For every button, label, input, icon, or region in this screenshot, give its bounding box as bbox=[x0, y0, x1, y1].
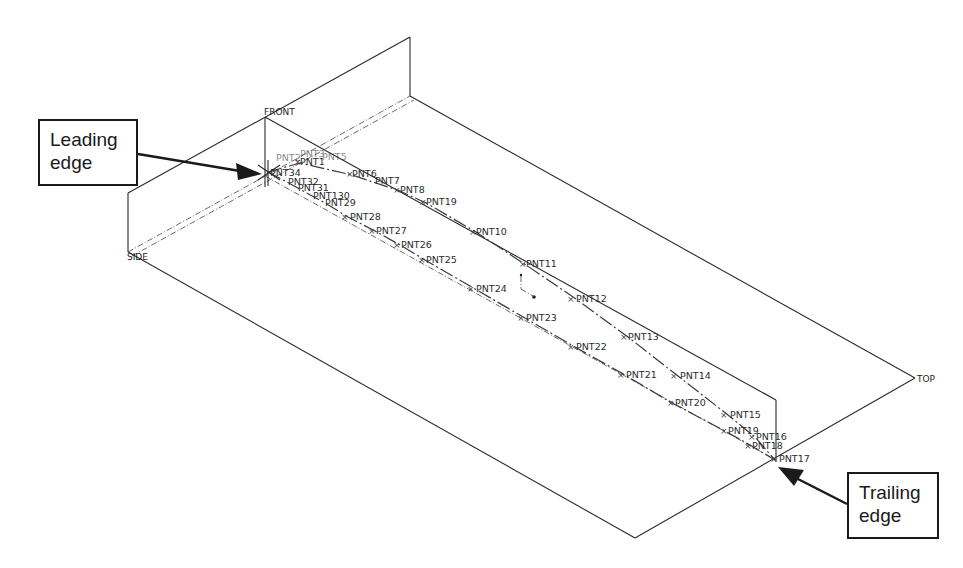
front-plane-label: FRONT bbox=[264, 107, 295, 117]
side-plane bbox=[128, 37, 414, 256]
svg-text:×: × bbox=[744, 441, 752, 451]
svg-text:×: × bbox=[419, 197, 427, 207]
top-plane-label: TOP bbox=[916, 374, 936, 384]
airfoil-diagram-canvas: FRONT SIDE TOP PNT1 PNT6 PNT7 PNT8 PNT19… bbox=[0, 0, 963, 568]
trailing-point-label: PNT17 bbox=[779, 453, 810, 464]
trailing-callout-line2: edge bbox=[859, 504, 937, 527]
svg-text:×: × bbox=[341, 212, 349, 222]
svg-text:×: × bbox=[620, 332, 628, 342]
leading-callout-line1: Leading bbox=[50, 128, 136, 151]
leading-edge-arrow bbox=[138, 154, 262, 180]
svg-text:×: × bbox=[368, 226, 376, 236]
csys-icon bbox=[520, 274, 536, 299]
point-label: PNT29 bbox=[325, 197, 356, 208]
point-label: PNT6 bbox=[352, 168, 377, 179]
svg-text:×: × bbox=[393, 240, 401, 250]
lower-surface-points: PNT34 PNT32 PNT31 PNT130 PNT29 PNT28 PNT… bbox=[270, 167, 783, 451]
point-label: PNT10 bbox=[476, 226, 507, 237]
svg-text:PNT2: PNT2 bbox=[276, 152, 301, 163]
point-label: PNT15 bbox=[730, 409, 761, 420]
svg-text:×: × bbox=[469, 227, 477, 237]
trailing-callout-line1: Trailing bbox=[859, 481, 937, 504]
point-label: PNT23 bbox=[526, 312, 557, 323]
trailing-edge-arrow bbox=[778, 467, 847, 504]
trailing-edge-callout: Trailing edge bbox=[847, 472, 939, 539]
svg-text:×: × bbox=[670, 371, 678, 381]
leading-callout-line2: edge bbox=[50, 151, 136, 174]
svg-text:×: × bbox=[720, 426, 728, 436]
svg-text:×: × bbox=[467, 284, 475, 294]
svg-text:×: × bbox=[567, 342, 575, 352]
svg-text:PNT3: PNT3 bbox=[300, 148, 325, 159]
point-label: PNT27 bbox=[376, 225, 407, 236]
point-label: PNT11 bbox=[526, 258, 557, 269]
point-label: PNT21 bbox=[626, 369, 657, 380]
point-label: PNT14 bbox=[680, 370, 711, 381]
svg-text:×: × bbox=[667, 398, 675, 408]
point-markers: × × × × × × × × × × × × × × × × × × × × … bbox=[294, 157, 778, 464]
point-label: PNT19 bbox=[426, 196, 457, 207]
point-label: PNT13 bbox=[628, 331, 659, 342]
svg-text:×: × bbox=[617, 370, 625, 380]
point-label: PNT8 bbox=[400, 184, 425, 195]
svg-text:×: × bbox=[393, 185, 401, 195]
svg-text:×: × bbox=[770, 454, 778, 464]
side-plane-label: SIDE bbox=[127, 252, 148, 262]
upper-surface-points: PNT1 PNT6 PNT7 PNT8 PNT19 PNT10 PNT11 PN… bbox=[300, 156, 787, 442]
point-label: PNT24 bbox=[476, 283, 507, 294]
point-label: PNT12 bbox=[576, 293, 607, 304]
point-label: PNT22 bbox=[576, 341, 607, 352]
svg-text:×: × bbox=[517, 313, 525, 323]
leading-edge-callout: Leading edge bbox=[38, 119, 138, 186]
point-label: PNT26 bbox=[401, 239, 432, 250]
point-label: PNT28 bbox=[350, 211, 381, 222]
point-label: PNT20 bbox=[675, 397, 706, 408]
svg-text:×: × bbox=[567, 294, 575, 304]
svg-text:PNT5: PNT5 bbox=[322, 151, 347, 162]
svg-text:×: × bbox=[720, 410, 728, 420]
svg-text:×: × bbox=[418, 255, 426, 265]
point-label: PNT25 bbox=[426, 254, 457, 265]
svg-text:×: × bbox=[519, 259, 527, 269]
front-plane bbox=[265, 117, 776, 462]
point-label: PNT18 bbox=[752, 440, 783, 451]
svg-text:×: × bbox=[346, 169, 354, 179]
